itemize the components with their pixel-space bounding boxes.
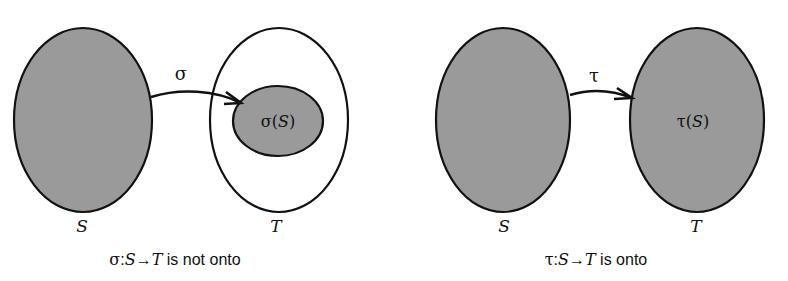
codomain-label: T (690, 216, 703, 236)
set-s-ellipse (436, 28, 570, 212)
codomain-label: T (270, 216, 283, 236)
image-set-label: τ(S) (677, 112, 709, 131)
panel-not-onto: σ σ(S) S T σ:S→T is not onto (14, 28, 348, 269)
map-symbol-label: σ (175, 63, 187, 84)
caption-not-onto: σ:S→T is not onto (109, 250, 240, 269)
panel-onto: τ τ(S) S T τ:S→T is onto (436, 28, 764, 269)
domain-label: S (498, 216, 510, 236)
map-symbol-label: τ (589, 65, 599, 86)
caption-onto: τ:S→T is onto (545, 250, 648, 269)
onto-mapping-diagram: σ σ(S) S T σ:S→T is not onto τ τ(S) S (0, 0, 788, 281)
domain-label: S (76, 216, 88, 236)
image-set-label: σ(S) (261, 112, 295, 131)
set-s-ellipse (14, 28, 152, 212)
